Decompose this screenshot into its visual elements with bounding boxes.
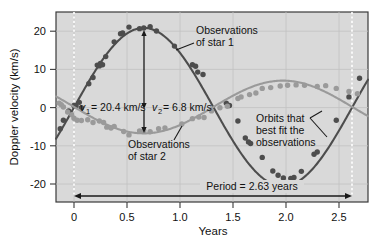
data-point	[196, 114, 201, 119]
best-fit-line-3: observations	[256, 136, 316, 148]
data-point	[90, 120, 95, 125]
data-point	[58, 126, 63, 131]
data-point	[225, 104, 230, 109]
y-tick-label-3: -10	[30, 140, 46, 152]
obs-star-1-line-2: of star 1	[196, 36, 234, 48]
data-point	[101, 120, 106, 125]
data-point	[121, 129, 126, 134]
data-point	[193, 64, 198, 69]
y-tick-label-1: 10	[34, 63, 46, 75]
data-point	[268, 85, 273, 90]
x-tick-label-0: 0	[71, 211, 77, 223]
data-point	[355, 91, 360, 96]
data-point	[238, 94, 243, 99]
data-point	[334, 86, 339, 91]
best-fit-line-1: Orbits that	[256, 112, 305, 124]
data-point	[357, 76, 362, 81]
data-point	[235, 118, 240, 123]
data-point	[61, 104, 66, 109]
y-tick-label-2: 0	[40, 102, 46, 114]
data-point	[111, 39, 116, 44]
data-point	[346, 94, 351, 99]
data-point	[278, 83, 283, 88]
data-point	[253, 90, 258, 95]
v2-value: = 6.8 km/s	[163, 101, 212, 113]
data-point	[195, 69, 200, 74]
x-tick-label-2: 1.0	[172, 211, 187, 223]
x-tick-label-4: 2.0	[278, 211, 293, 223]
data-point	[346, 89, 351, 94]
obs-star-2-line-1: Observations	[128, 138, 190, 150]
obs-star-1-line-1: Observations	[196, 24, 258, 36]
period-label: Period = 2.63 years	[206, 180, 297, 192]
y-tick-label-0: 20	[34, 25, 46, 37]
data-point	[302, 83, 307, 88]
data-point	[79, 118, 84, 123]
data-point	[260, 86, 265, 91]
data-point	[247, 92, 252, 97]
data-point	[217, 105, 222, 110]
data-point	[285, 83, 290, 88]
data-point	[141, 25, 146, 30]
doppler-velocity-chart: 20 10 0 -10 -20 0 0.5 1.0 1.5 2.0 2.5 Do…	[0, 0, 380, 241]
data-point	[147, 129, 152, 134]
data-point	[111, 124, 116, 129]
data-point	[126, 24, 131, 29]
y-axis-title: Doppler velocity (km/s)	[8, 48, 20, 165]
data-point	[85, 117, 90, 122]
data-point	[147, 24, 152, 29]
obs-star-2-line-2: of star 2	[128, 150, 166, 162]
data-point	[260, 155, 265, 160]
data-point	[172, 43, 177, 48]
y-tick-label-4: -20	[30, 178, 46, 190]
data-point	[323, 83, 328, 88]
data-point	[100, 62, 105, 67]
x-tick-label-1: 0.5	[119, 211, 134, 223]
best-fit-line-2: best fit the	[256, 124, 305, 136]
data-point	[103, 54, 108, 59]
data-point	[270, 168, 275, 173]
data-point	[90, 75, 95, 80]
data-point	[86, 81, 91, 86]
x-tick-label-5: 2.5	[331, 211, 346, 223]
data-point	[275, 173, 280, 178]
data-point	[299, 169, 304, 174]
data-point	[162, 125, 167, 130]
data-point	[61, 117, 66, 122]
data-point	[200, 72, 205, 77]
chart-svg: 20 10 0 -10 -20 0 0.5 1.0 1.5 2.0 2.5 Do…	[0, 0, 380, 241]
data-point	[126, 132, 131, 137]
data-point	[248, 141, 253, 146]
v1-value: = 20.4 km/s	[91, 101, 146, 113]
data-point	[201, 115, 206, 120]
x-axis-title: Years	[199, 225, 228, 237]
data-point	[190, 116, 195, 121]
data-point	[156, 126, 161, 131]
data-point	[315, 149, 320, 154]
x-tick-label-3: 1.5	[225, 211, 240, 223]
data-point	[315, 84, 320, 89]
v2-subscript: 2	[158, 107, 162, 116]
data-point	[334, 117, 339, 122]
v1-subscript: 1	[86, 107, 90, 116]
data-point	[120, 30, 125, 35]
data-point	[154, 28, 159, 33]
data-point	[293, 82, 298, 87]
